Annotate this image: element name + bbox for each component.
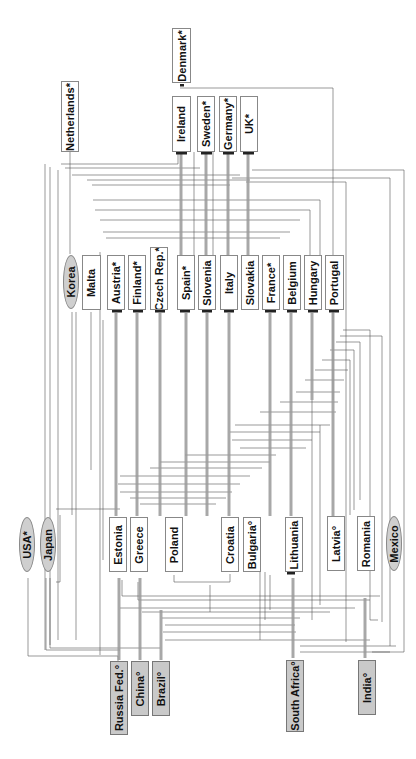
node-label: Poland <box>168 526 180 563</box>
node-label: Brazil° <box>155 671 167 705</box>
node-bulgaria: Bulgaria° <box>243 517 261 572</box>
node-label: Sweden* <box>200 101 212 147</box>
node-croatia: Croatia <box>221 517 239 572</box>
node-label: Austria* <box>110 261 122 303</box>
node-label: Russia Fed.° <box>113 665 125 731</box>
node-austria: Austria* <box>107 255 125 310</box>
node-label: Belgium <box>286 261 298 304</box>
node-label: Portugal <box>329 260 341 305</box>
node-label: Finland* <box>131 261 143 304</box>
node-romania: Romania <box>357 516 375 571</box>
node-germany: Germany* <box>219 96 237 152</box>
node-label: Czech Rep.* <box>153 247 165 310</box>
node-japan: Japan <box>40 517 56 572</box>
node-belgium: Belgium <box>283 255 301 310</box>
node-uk: UK* <box>240 96 258 152</box>
node-ireland: Ireland <box>172 96 191 152</box>
node-label: South Africa° <box>289 661 301 730</box>
node-label: Mexico <box>388 525 400 562</box>
node-lithuania: Lithuania <box>285 517 303 572</box>
node-greece: Greece <box>130 517 148 572</box>
node-china: China° <box>131 661 149 716</box>
node-label: Lithuania <box>288 520 300 569</box>
node-france: France* <box>262 255 280 310</box>
node-label: Ireland <box>176 106 188 142</box>
node-portugal: Portugal <box>325 255 344 310</box>
node-brazil: Brazil° <box>152 661 170 716</box>
node-poland: Poland <box>165 517 183 572</box>
node-label: France* <box>265 262 277 302</box>
node-label: Germany* <box>222 98 234 150</box>
node-korea: Korea <box>63 255 79 309</box>
node-label: Romania <box>360 520 372 566</box>
node-label: USA* <box>21 531 33 559</box>
node-mexico: Mexico <box>386 516 402 571</box>
node-hungary: Hungary <box>304 255 322 310</box>
node-sweden: Sweden* <box>197 96 215 152</box>
node-label: China° <box>134 671 146 706</box>
network-diagram: Denmark* Netherlands* Ireland Sweden* Ge… <box>0 0 416 759</box>
node-label: Spain* <box>180 265 192 299</box>
node-slovenia: Slovenia <box>198 255 216 310</box>
node-label: Croatia <box>224 526 236 564</box>
node-finland: Finland* <box>128 255 146 310</box>
node-label: Latvia° <box>330 525 342 561</box>
node-usa: USA* <box>19 517 35 572</box>
node-italy: Italy <box>220 255 238 310</box>
node-russia-fed: Russia Fed.° <box>110 661 128 735</box>
node-czech-rep: Czech Rep.* <box>150 247 168 310</box>
node-spain: Spain* <box>177 255 195 310</box>
node-estonia: Estonia <box>109 517 127 572</box>
node-south-africa: South Africa° <box>286 660 304 732</box>
node-india: India° <box>358 660 376 715</box>
node-label: Slovenia <box>201 260 213 305</box>
node-netherlands: Netherlands* <box>61 81 79 152</box>
node-label: Korea <box>65 266 77 297</box>
node-label: Italy <box>223 271 235 293</box>
node-label: India° <box>361 672 373 702</box>
node-latvia: Latvia° <box>327 516 345 571</box>
node-slovakia: Slovakia <box>241 255 259 310</box>
node-label: Denmark* <box>176 30 188 81</box>
node-label: Bulgaria° <box>246 520 258 568</box>
node-label: Japan <box>42 529 54 561</box>
node-malta: Malta <box>82 255 101 310</box>
node-label: Estonia <box>112 525 124 565</box>
node-denmark: Denmark* <box>172 28 191 83</box>
node-label: Hungary <box>307 260 319 305</box>
node-label: Netherlands* <box>64 83 76 151</box>
node-label: UK* <box>243 114 255 134</box>
node-label: Greece <box>133 526 145 563</box>
node-label: Slovakia <box>244 260 256 305</box>
node-label: Malta <box>86 268 98 296</box>
